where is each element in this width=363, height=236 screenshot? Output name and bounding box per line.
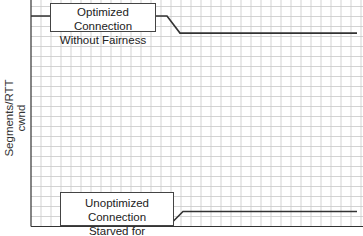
annotation-line-1: Optimized Connection [51, 5, 155, 33]
unoptimized-connection-annotation: Unoptimized Connection Starved for Bandw… [60, 192, 174, 226]
annotation-line-2: Without Fairness [51, 33, 155, 47]
annotation-line-1: Unoptimized Connection [61, 196, 173, 224]
y-axis-label: Segments/RTT cwnd [0, 0, 30, 236]
y-axis-label-line-2: cwnd [15, 79, 27, 156]
unoptimized-connection-line [168, 212, 357, 227]
y-axis-label-line-1: Segments/RTT [3, 79, 15, 156]
optimized-connection-annotation: Optimized Connection Without Fairness [50, 3, 156, 32]
annotation-line-2: Starved for Bandwidth [61, 224, 173, 236]
